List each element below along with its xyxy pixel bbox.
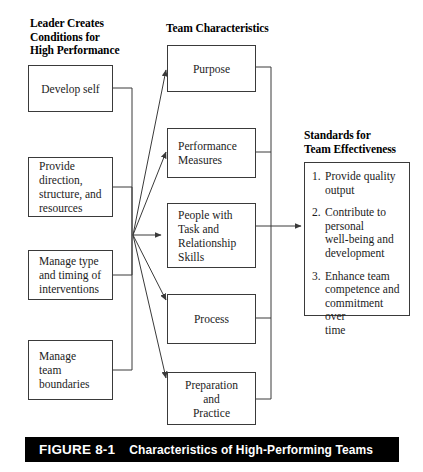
box-develop-self-label: Develop self — [35, 82, 105, 96]
standards-item: 1. Provide quality output — [312, 170, 403, 197]
box-provide-direction-label: Provide direction, structure, and resour… — [29, 159, 112, 215]
heading-leader-conditions: Leader Creates Conditions for High Perfo… — [30, 17, 150, 58]
wire-right-bus — [256, 67, 271, 399]
box-manage-team-boundaries[interactable]: Manage team boundaries — [28, 340, 113, 400]
standards-item-text: Contribute to personal well-being and de… — [325, 206, 403, 260]
box-preparation-practice[interactable]: Preparation and Practice — [167, 372, 256, 425]
figure-diagram: Leader Creates Conditions for High Perfo… — [0, 0, 423, 472]
box-process-label: Process — [188, 312, 235, 326]
standards-item-number: 2. — [312, 206, 325, 260]
standards-item: 3. Enhance team competence and commitmen… — [312, 270, 403, 338]
wire-hub-preparation — [133, 235, 166, 378]
wire-develop-self — [113, 88, 132, 235]
box-people-skills[interactable]: People with Task and Relationship Skills — [167, 203, 256, 268]
box-manage-type-timing-label: Manage type and timing of interventions — [29, 254, 112, 296]
figure-caption-bar: FIGURE 8-1 Characteristics of High-Perfo… — [25, 437, 399, 462]
heading-standards: Standards for Team Effectiveness — [304, 129, 423, 156]
wire-manage-boundaries — [113, 235, 132, 370]
wire-hub-performance — [133, 152, 166, 235]
standards-item-number: 1. — [312, 170, 325, 197]
box-people-skills-label: People with Task and Relationship Skills — [168, 208, 255, 264]
wire-hub-purpose — [133, 70, 166, 235]
figure-caption-number: FIGURE 8-1 — [39, 442, 115, 457]
standards-item-text: Enhance team competence and commitment o… — [325, 270, 403, 338]
heading-team-characteristics: Team Characteristics — [166, 22, 296, 36]
box-manage-team-boundaries-label: Manage team boundaries — [29, 349, 112, 391]
box-provide-direction[interactable]: Provide direction, structure, and resour… — [28, 157, 113, 217]
box-process[interactable]: Process — [167, 294, 256, 344]
standards-item: 2. Contribute to personal well-being and… — [312, 206, 403, 260]
box-performance-measures[interactable]: Performance Measures — [167, 128, 256, 178]
standards-item-number: 3. — [312, 270, 325, 338]
box-preparation-practice-label: Preparation and Practice — [179, 378, 244, 420]
box-develop-self[interactable]: Develop self — [28, 65, 113, 112]
box-standards-for-team-effectiveness[interactable]: 1. Provide quality output 2. Contribute … — [304, 162, 410, 316]
box-purpose[interactable]: Purpose — [167, 45, 256, 92]
box-performance-measures-label: Performance Measures — [168, 139, 255, 167]
box-manage-type-timing[interactable]: Manage type and timing of interventions — [28, 250, 113, 300]
standards-item-text: Provide quality output — [325, 170, 403, 197]
figure-caption-title: Characteristics of High-Performing Teams — [129, 443, 373, 457]
wire-hub-process — [133, 235, 166, 300]
box-purpose-label: Purpose — [187, 62, 236, 76]
